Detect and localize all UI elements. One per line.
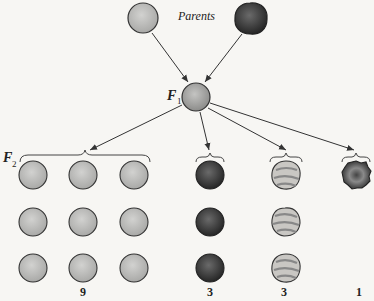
parents-label: Parents bbox=[177, 9, 215, 23]
f2-subscript: 2 bbox=[12, 159, 17, 169]
count-group1: 9 bbox=[80, 285, 86, 299]
count-group4: 1 bbox=[356, 285, 362, 299]
f1-subscript: 1 bbox=[177, 96, 182, 106]
arrow-f1-group2 bbox=[200, 112, 209, 150]
group-light-smooth bbox=[19, 161, 148, 282]
arrow-parent-left bbox=[152, 33, 188, 82]
f1-label: F bbox=[166, 88, 177, 103]
brace-group1 bbox=[20, 150, 150, 162]
arrow-parent-right bbox=[205, 34, 242, 82]
arrow-f1-group1 bbox=[90, 105, 182, 150]
arrow-f1-group4 bbox=[210, 103, 354, 150]
group-dark-smooth bbox=[196, 161, 224, 282]
seed-dark-wrinkled bbox=[342, 161, 371, 189]
parent-light-seed bbox=[128, 3, 158, 33]
parent-dark-seed bbox=[235, 3, 267, 34]
f1-seed bbox=[182, 83, 210, 111]
arrow-f1-group3 bbox=[208, 108, 286, 150]
dihybrid-cross-diagram: Parents F 1 F 2 bbox=[0, 0, 374, 301]
count-group3: 3 bbox=[281, 285, 287, 299]
count-group2: 3 bbox=[207, 285, 213, 299]
group-light-wrinkled bbox=[272, 161, 300, 282]
